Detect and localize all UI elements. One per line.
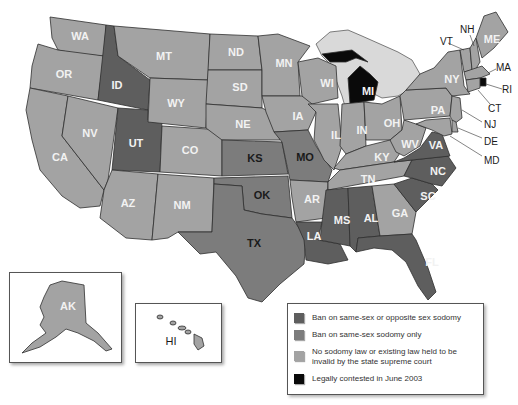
label-NC: NC [430,165,446,177]
callout-line-RI [486,84,502,89]
label-RI: RI [502,84,512,95]
legend-swatch-contested [294,374,304,384]
label-MN: MN [275,57,292,69]
label-ID: ID [112,79,123,91]
label-ME: ME [484,33,501,45]
legend-item-same-sex-only: Ban on same-sex sodomy only [294,330,421,340]
label-NH: NH [460,24,474,35]
label-MA: MA [496,62,511,73]
label-MD: MD [484,155,500,166]
label-MO: MO [296,151,314,163]
legend-swatch-same-sex-only [294,330,304,340]
label-NV: NV [82,127,98,139]
label-WA: WA [71,30,89,42]
hawaii-inset: HI [135,303,222,363]
label-TN: TN [361,173,376,185]
legend-item-both: Ban on same-sex or opposite sex sodomy [294,313,461,323]
legend-label-both: Ban on same-sex or opposite sex sodomy [312,313,461,323]
alaska-inset: AK [9,272,122,363]
state-AK[interactable] [22,281,112,353]
callout-line-NJ [462,110,482,122]
label-NY: NY [444,73,460,85]
state-CT[interactable] [466,78,480,92]
legend-item-contested: Legally contested in June 2003 [294,374,422,384]
legend-swatch-none [294,351,304,361]
label-OR: OR [56,68,73,80]
label-FL: FL [425,256,439,268]
state-RI[interactable] [480,78,486,86]
label-MS: MS [334,214,351,226]
label-IN: IN [357,124,368,136]
label-CT: CT [488,103,501,114]
label-VT: VT [440,36,453,47]
label-UT: UT [129,137,144,149]
label-CO: CO [182,144,199,156]
label-OH: OH [384,117,401,129]
hawaii-map: HI [136,304,221,362]
legend-item-none: No sodomy law or existing law held to be… [294,347,474,367]
legend-label-none: No sodomy law or existing law held to be… [312,347,474,367]
label-GA: GA [392,207,409,219]
label-WV: WV [401,138,419,150]
label-WY: WY [167,97,185,109]
callout-line-DE [458,128,482,138]
label-MT: MT [156,50,172,62]
label-TX: TX [247,237,262,249]
label-CA: CA [52,151,68,163]
state-FL[interactable] [356,234,436,300]
label-IA: IA [293,110,304,122]
label-NJ: NJ [484,119,496,130]
state-HI[interactable] [157,315,204,350]
label-KY: KY [374,151,390,163]
legend-swatch-both [294,313,304,323]
callout-line-MA [488,69,496,73]
label-DE: DE [484,136,498,147]
callout-line-CT [478,90,490,104]
label-MI: MI [362,85,374,97]
callout-line-MD [450,136,482,156]
legend: Ban on same-sex or opposite sex sodomy B… [287,303,484,395]
label-LA: LA [307,230,322,242]
label-WI: WI [320,77,333,89]
label-NE: NE [235,118,250,130]
label-PA: PA [431,104,446,116]
label-HI: HI [166,335,177,347]
label-KS: KS [247,152,262,164]
label-IL: IL [331,129,341,141]
alaska-map: AK [10,273,121,362]
label-OK: OK [254,189,271,201]
label-AK: AK [60,300,76,312]
label-NM: NM [173,199,190,211]
label-AZ: AZ [121,197,136,209]
legend-label-same-sex-only: Ban on same-sex sodomy only [312,330,421,340]
legend-label-contested: Legally contested in June 2003 [312,374,422,384]
label-SC: SC [420,190,435,202]
label-SD: SD [232,81,247,93]
label-AR: AR [304,193,320,205]
label-VA: VA [429,139,444,151]
label-AL: AL [364,212,379,224]
label-ND: ND [228,46,244,58]
